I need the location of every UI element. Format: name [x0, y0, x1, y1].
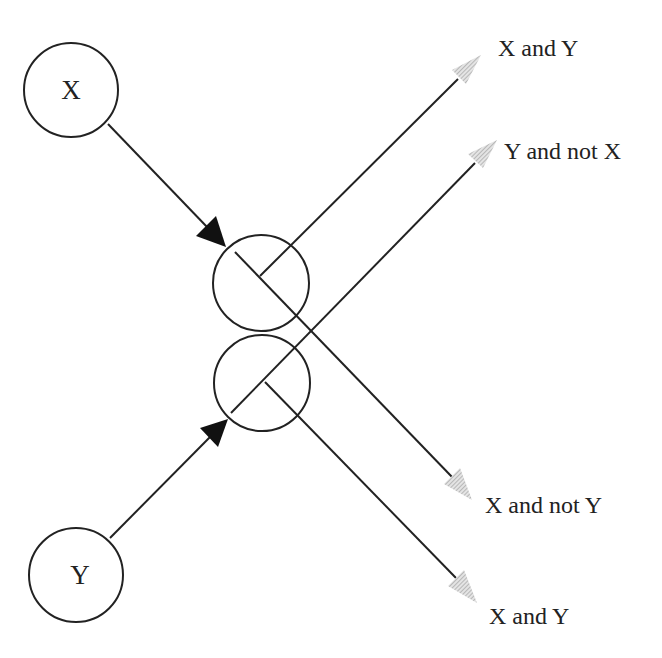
node-y-label: Y — [70, 560, 90, 590]
edge-lower-gate-to-x-and-y-bottom — [265, 382, 477, 603]
edge-upper-gate-to-x-and-not-y — [235, 252, 472, 500]
node-y: Y — [29, 528, 123, 622]
output-label-x-and-y-bottom: X and Y — [489, 603, 569, 629]
output-arrowhead-icon — [468, 140, 497, 168]
lower-gate-node — [214, 335, 310, 431]
output-label-x-and-not-y: X and not Y — [485, 492, 602, 518]
edge-y-to-lower-gate — [110, 419, 228, 538]
edge-x-to-upper-gate — [108, 124, 226, 247]
output-label-y-and-not-x: Y and not X — [504, 138, 621, 164]
output-label-x-and-y-top: X and Y — [498, 35, 578, 61]
edge-upper-gate-to-x-and-y-top — [260, 55, 481, 276]
upper-gate-node — [213, 235, 309, 331]
edge-lower-gate-to-y-and-not-x — [231, 140, 497, 413]
node-x-label: X — [61, 75, 81, 105]
diagram-canvas: X Y X and Y Y and not X X and not Y — [0, 0, 662, 658]
node-x: X — [24, 43, 118, 137]
